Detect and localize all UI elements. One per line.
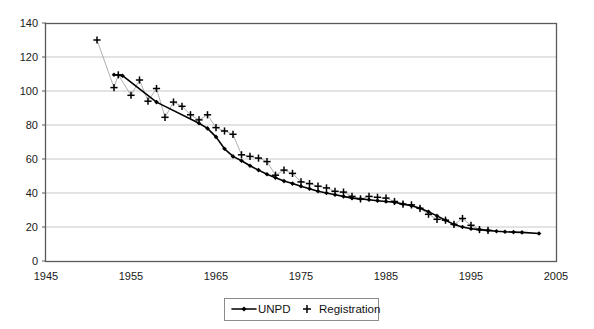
unpd-point (511, 230, 516, 235)
legend-label-unpd: UNPD (258, 303, 291, 315)
unpd-point (299, 184, 304, 189)
registration-point (306, 180, 313, 187)
y-axis-tick-labels: 020406080100120140 (20, 17, 38, 267)
y-tick-label-40: 40 (26, 187, 38, 199)
series-unpd-line (114, 75, 539, 234)
unpd-point (384, 199, 389, 204)
registration-point (221, 127, 228, 134)
x-tick-label-1995: 1995 (459, 270, 483, 282)
x-tick-label-1965: 1965 (204, 270, 228, 282)
series-registration-markers (93, 36, 491, 234)
y-tick-label-20: 20 (26, 221, 38, 233)
x-tick-label-1955: 1955 (119, 270, 143, 282)
unpd-point (358, 197, 363, 202)
unpd-point (307, 186, 312, 191)
registration-point (170, 99, 177, 106)
unpd-point (537, 231, 542, 236)
chart-legend: UNPDRegistration (225, 299, 381, 321)
unpd-point (367, 198, 372, 203)
y-tick-label-100: 100 (20, 85, 38, 97)
y-tick-label-60: 60 (26, 153, 38, 165)
unpd-point (418, 206, 423, 211)
unpd-point (477, 227, 482, 232)
chart-canvas: 020406080100120140 194519551965197519851… (0, 0, 594, 329)
series-registration-connectors (97, 40, 488, 230)
unpd-point (341, 194, 346, 199)
registration-point (161, 114, 168, 121)
unpd-point (375, 198, 380, 203)
registration-point (229, 131, 236, 138)
unpd-line-path (114, 75, 539, 234)
x-tick-label-1945: 1945 (34, 270, 58, 282)
unpd-point (494, 229, 499, 234)
registration-point (127, 92, 134, 99)
grid-lines (46, 57, 556, 227)
unpd-point (520, 230, 525, 235)
registration-point (93, 36, 100, 43)
registration-point (314, 183, 321, 190)
registration-connector-path (97, 40, 488, 230)
unpd-point (409, 203, 414, 208)
registration-point (204, 111, 211, 118)
registration-point (238, 151, 245, 158)
x-tick-label-1985: 1985 (374, 270, 398, 282)
y-tick-label-120: 120 (20, 51, 38, 63)
registration-point (110, 84, 117, 91)
unpd-point (290, 181, 295, 186)
legend-label-registration: Registration (319, 303, 380, 315)
series-unpd-markers (112, 73, 542, 236)
unpd-point (401, 202, 406, 207)
unpd-point (324, 191, 329, 196)
chart-container: 020406080100120140 194519551965197519851… (0, 0, 594, 329)
unpd-point (282, 179, 287, 184)
unpd-point (273, 175, 278, 180)
registration-point (136, 76, 143, 83)
x-axis-tick-labels: 1945195519651975198519952005 (34, 270, 568, 282)
registration-point (144, 98, 151, 105)
registration-point (280, 167, 287, 174)
unpd-point (486, 228, 491, 233)
y-tick-label-140: 140 (20, 17, 38, 29)
registration-point (323, 184, 330, 191)
x-tick-label-1975: 1975 (289, 270, 313, 282)
registration-point (459, 215, 466, 222)
registration-point (255, 155, 262, 162)
x-tick-label-2005: 2005 (544, 270, 568, 282)
plot-area-border (46, 24, 557, 262)
unpd-point (460, 225, 465, 230)
unpd-point (112, 73, 117, 78)
unpd-point (503, 230, 508, 235)
y-tick-label-0: 0 (32, 255, 38, 267)
y-tick-label-80: 80 (26, 119, 38, 131)
